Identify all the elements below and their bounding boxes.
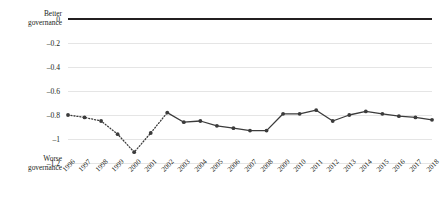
- data-point-marker: [281, 112, 285, 116]
- y-tick-label: –0.8: [34, 111, 60, 120]
- data-point-marker: [215, 124, 219, 128]
- data-point-marker: [149, 131, 153, 135]
- data-point-marker: [165, 111, 169, 115]
- data-point-marker: [99, 119, 103, 123]
- plot-area: [0, 0, 441, 207]
- data-point-marker: [265, 129, 269, 133]
- data-point-marker: [397, 114, 401, 118]
- data-point-marker: [364, 110, 368, 114]
- data-point-marker: [298, 112, 302, 116]
- data-point-marker: [116, 132, 120, 136]
- data-point-marker: [198, 119, 202, 123]
- y-tick-label: –1.2: [34, 159, 60, 168]
- y-tick-label: 0: [34, 15, 60, 24]
- data-point-marker: [66, 113, 70, 117]
- data-point-marker: [380, 112, 384, 116]
- data-point-marker: [182, 120, 186, 124]
- y-tick-label: –0.6: [34, 87, 60, 96]
- data-point-marker: [347, 113, 351, 117]
- data-point-marker: [232, 126, 236, 130]
- y-tick-label: –0.4: [34, 63, 60, 72]
- data-point-marker: [414, 116, 418, 120]
- governance-line-chart: Better governance Worse governance 0–0.2…: [0, 0, 441, 207]
- data-point-marker: [430, 118, 434, 122]
- data-point-marker: [83, 116, 87, 120]
- data-point-marker: [331, 119, 335, 123]
- data-point-marker: [314, 108, 318, 112]
- gridlines: [68, 19, 432, 163]
- y-tick-label: –1: [34, 135, 60, 144]
- data-point-marker: [248, 129, 252, 133]
- data-point-marker: [132, 150, 136, 154]
- y-tick-label: –0.2: [34, 39, 60, 48]
